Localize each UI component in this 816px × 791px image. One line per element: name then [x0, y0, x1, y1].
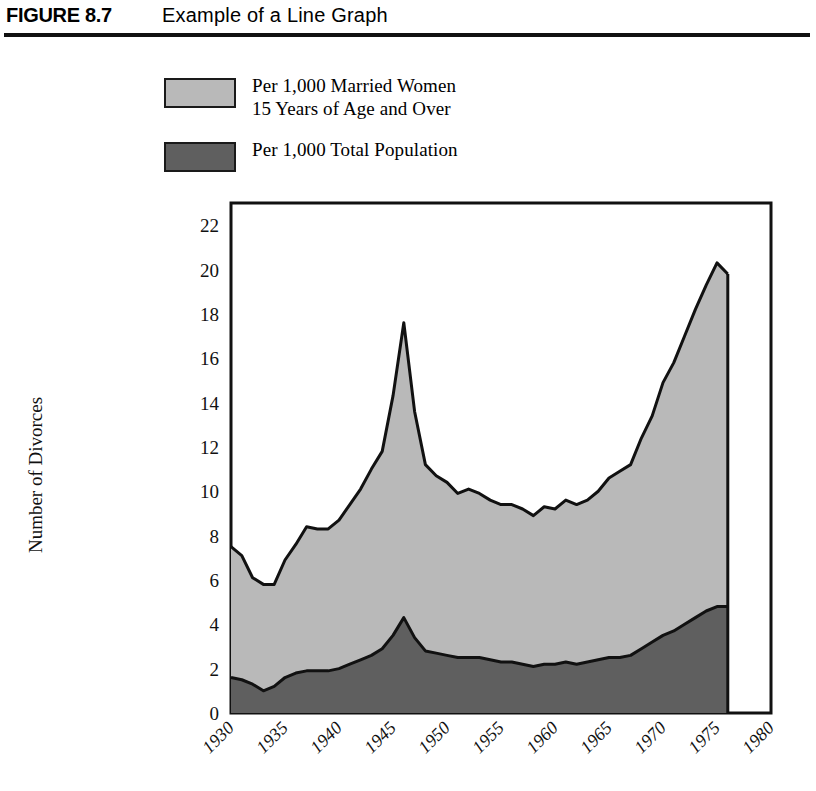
figure-header: FIGURE 8.7 Example of a Line Graph [0, 0, 816, 46]
x-tick-1935: 1935 [252, 718, 292, 758]
y-tick-4: 4 [210, 614, 220, 635]
x-tick-1955: 1955 [468, 718, 508, 758]
line-graph: 0246810121416182022 19301935194019451950… [0, 190, 816, 790]
y-tick-10: 10 [200, 481, 219, 502]
legend-label-married-women: Per 1,000 Married Women 15 Years of Age … [252, 74, 456, 120]
y-tick-8: 8 [210, 526, 220, 547]
x-tick-1975: 1975 [684, 718, 724, 758]
legend-swatch-total-population [164, 142, 236, 172]
y-tick-18: 18 [200, 304, 219, 325]
chart-container: 0246810121416182022 19301935194019451950… [0, 190, 816, 790]
y-tick-22: 22 [200, 215, 219, 236]
y-axis-title: Number of Divorces [25, 397, 46, 553]
x-tick-1970: 1970 [630, 718, 670, 758]
y-tick-0: 0 [210, 703, 220, 724]
x-tick-1960: 1960 [522, 718, 562, 758]
y-tick-20: 20 [200, 260, 219, 281]
legend-item-married-women: Per 1,000 Married Women 15 Years of Age … [164, 76, 594, 120]
x-tick-1950: 1950 [414, 718, 454, 758]
y-tick-6: 6 [210, 570, 220, 591]
x-tick-1945: 1945 [360, 718, 400, 758]
page-title: Example of a Line Graph [162, 4, 388, 27]
figure-number: FIGURE 8.7 [6, 4, 112, 27]
y-tick-16: 16 [200, 348, 219, 369]
x-tick-1980: 1980 [738, 718, 778, 758]
legend-item-total-population: Per 1,000 Total Population [164, 140, 594, 184]
header-divider [4, 33, 810, 37]
x-axis-tick-labels: 1930193519401945195019551960196519701975… [198, 718, 778, 758]
x-tick-1930: 1930 [198, 718, 238, 758]
legend: Per 1,000 Married Women 15 Years of Age … [164, 76, 594, 184]
y-axis-tick-labels: 0246810121416182022 [200, 215, 220, 724]
y-tick-14: 14 [200, 393, 220, 414]
x-tick-1940: 1940 [306, 718, 346, 758]
x-tick-1965: 1965 [576, 718, 616, 758]
legend-swatch-married-women [164, 78, 236, 108]
y-tick-2: 2 [210, 659, 220, 680]
legend-label-total-population: Per 1,000 Total Population [252, 138, 458, 161]
y-tick-12: 12 [200, 437, 219, 458]
